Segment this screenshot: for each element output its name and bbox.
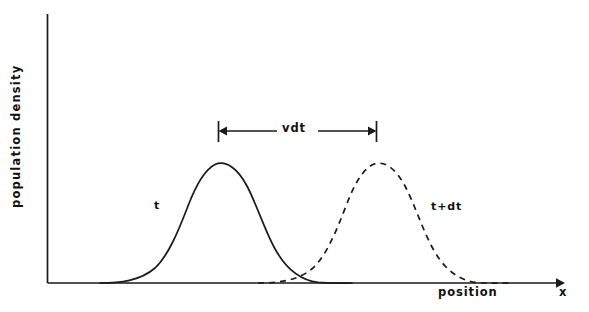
figure-container: population density position x vdt t t+dt	[0, 0, 589, 312]
y-axis-label: population density	[8, 46, 26, 226]
curve-label-t: t	[154, 200, 160, 211]
curve-label-t-plus-dt: t+dt	[431, 201, 462, 212]
x-axis-variable-label: x	[559, 287, 567, 299]
x-axis-label: position	[438, 287, 498, 299]
vdt-right-arrowhead-icon	[368, 127, 377, 136]
vdt-left-arrowhead-icon	[219, 127, 228, 136]
curve-population-density-t	[100, 163, 352, 283]
curve-population-density-t-plus-dt	[258, 163, 510, 283]
vdt-displacement-label: vdt	[282, 123, 306, 135]
figure-canvas	[0, 0, 589, 312]
